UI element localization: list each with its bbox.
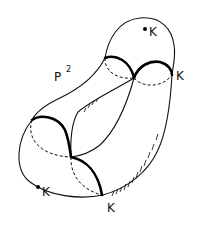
surface-superscript: 2 <box>66 65 71 74</box>
top-right-ring-back <box>134 75 172 85</box>
bottom-right-ring-front <box>71 157 102 195</box>
top-point-dot <box>143 27 147 31</box>
bottom-left-ring-front <box>32 117 71 157</box>
bottom-left-outline <box>19 120 103 197</box>
inner-tube-line-right <box>71 78 134 157</box>
surface-drawing: P 2 K K K K <box>0 0 197 232</box>
bottom-point-label: K <box>42 185 51 199</box>
top-right-ring-front <box>134 62 172 78</box>
surface-label: P <box>54 70 61 84</box>
inner-tube-line-left <box>71 78 134 157</box>
bottom-ring-label: K <box>107 201 116 215</box>
hatching-lower-right <box>112 134 158 196</box>
right-outer-boundary <box>103 75 172 195</box>
bottom-left-ring-back <box>31 120 71 157</box>
top-left-ring-front <box>105 57 134 78</box>
top-cap-outline <box>105 18 175 75</box>
bottom-point-dot <box>36 185 40 189</box>
surface-diagram: P 2 K K K K <box>0 0 197 232</box>
top-point-label: K <box>149 25 158 39</box>
right-ring-label: K <box>176 69 185 83</box>
